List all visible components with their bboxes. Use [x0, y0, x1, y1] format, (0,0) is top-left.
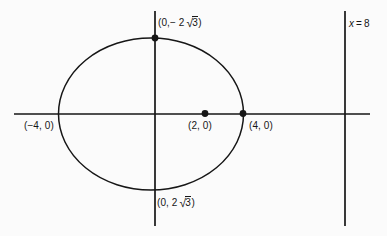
label-vertical-line: x=8 [349, 19, 370, 29]
radical-bottom-vertex: √3 [180, 197, 192, 209]
label-bottom-vertex: (0, 2√3) [157, 197, 195, 209]
ellipse-directrix-figure: (0,− 2√3) (0, 2√3) (−4, 0) (2, 0) (4, 0)… [0, 0, 387, 236]
label-vertical-line-value: 8 [364, 18, 370, 29]
label-bottom-vertex-suffix: ) [191, 197, 194, 208]
label-right-vertex: (4, 0) [249, 121, 273, 131]
label-top-vertex: (0,− 2√3) [158, 17, 202, 29]
label-center-point: (2, 0) [188, 121, 212, 131]
radical-top-vertex: √3 [186, 17, 198, 29]
point-marker-center [202, 110, 209, 117]
point-marker-top-vertex [152, 35, 159, 42]
label-top-vertex-suffix: ) [198, 17, 201, 28]
label-vertical-line-relation: = [356, 18, 362, 29]
label-left-vertex: (−4, 0) [24, 121, 54, 131]
label-top-vertex-prefix: (0,− 2 [158, 17, 184, 28]
label-vertical-line-variable: x [349, 18, 354, 29]
point-marker-right-vertex [240, 110, 247, 117]
label-bottom-vertex-prefix: (0, 2 [157, 197, 178, 208]
